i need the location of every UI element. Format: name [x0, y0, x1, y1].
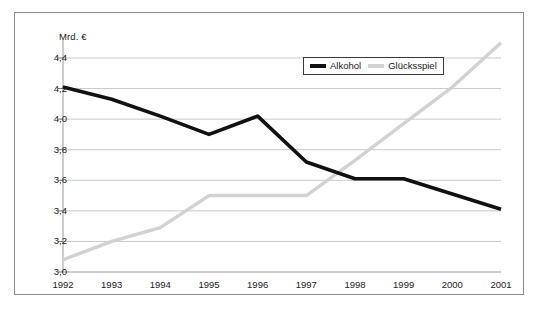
x-tick-label: 1994 [150, 279, 171, 290]
legend-label-gluecksspiel: Glücksspiel [388, 60, 437, 71]
x-axis-tick-labels: 1992199319941995199619971998199920002001 [15, 13, 523, 294]
x-tick-label: 1993 [101, 279, 122, 290]
chart-legend: Alkohol Glücksspiel [303, 57, 444, 75]
x-tick-label: 1995 [198, 279, 219, 290]
x-tick-label: 2000 [442, 279, 463, 290]
legend-entry-gluecksspiel: Glücksspiel [368, 60, 437, 71]
legend-swatch-alkohol [310, 64, 326, 68]
x-tick-label: 1998 [344, 279, 365, 290]
legend-label-alkohol: Alkohol [330, 60, 361, 71]
x-tick-label: 1999 [393, 279, 414, 290]
x-tick-label: 1992 [52, 279, 73, 290]
x-tick-label: 1996 [247, 279, 268, 290]
x-tick-label: 1997 [296, 279, 317, 290]
legend-swatch-gluecksspiel [368, 64, 384, 68]
legend-entry-alkohol: Alkohol [310, 60, 361, 71]
chart-frame: Mrd. € 3,03,23,43,63,84,04,24,4 19921993… [14, 12, 524, 295]
chart-figure: Mrd. € 3,03,23,43,63,84,04,24,4 19921993… [0, 0, 538, 317]
x-tick-label: 2001 [490, 279, 511, 290]
